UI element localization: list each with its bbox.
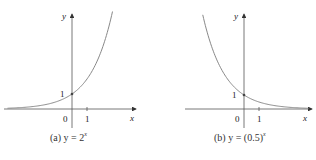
y-tick-label: 1 xyxy=(232,90,237,100)
y-axis-label: y xyxy=(233,11,238,21)
caption-a-exponent: x xyxy=(84,131,87,137)
origin-label: 0 xyxy=(63,114,68,124)
caption-b: (b) y = (0.5)x xyxy=(214,131,266,143)
x-axis-label: x xyxy=(129,113,134,123)
chart-a: y x 1 0 1 xyxy=(4,11,136,128)
caption-b-text: (b) y = (0.5) xyxy=(214,132,263,143)
x-axis-label: x xyxy=(302,113,307,123)
origin-label: 0 xyxy=(235,114,240,124)
y-axis-label: y xyxy=(61,11,66,21)
point-0-1 xyxy=(71,93,74,96)
caption-a: (a) y = 2x xyxy=(50,131,87,143)
x-tick-label: 1 xyxy=(257,114,262,124)
curve-b xyxy=(203,15,309,108)
x-tick-label: 1 xyxy=(85,114,90,124)
figure: y x 1 0 1 y x 1 0 1 xyxy=(0,0,316,160)
caption-b-exponent: x xyxy=(263,131,266,137)
caption-a-text: (a) y = 2 xyxy=(50,132,84,143)
point-0-1 xyxy=(243,94,246,97)
chart-b: y x 1 0 1 xyxy=(185,11,312,128)
y-tick-label: 1 xyxy=(60,89,65,99)
